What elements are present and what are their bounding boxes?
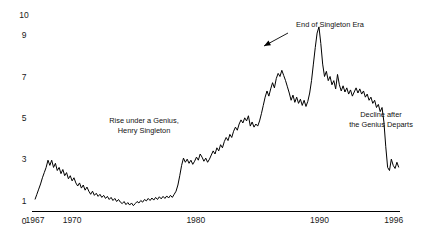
y-tick-label-10: 10 — [19, 10, 29, 20]
y-tick-label-5: 5 — [22, 113, 27, 123]
y-tick-label-9: 9 — [22, 30, 27, 40]
x-tick-label-1996: 1996 — [384, 215, 403, 225]
annotation-end-of-era-arrow-head — [264, 41, 271, 46]
series-line-0 — [35, 27, 399, 206]
y-tick-label-3: 3 — [22, 154, 27, 164]
annotation-decline-text: Decline afterthe Genius Departs — [349, 110, 413, 129]
annotation-rise-text: Rise under a Genius,Henry Singleton — [109, 116, 178, 135]
annotation-rise: Rise under a Genius,Henry Singleton — [109, 116, 178, 135]
data-series-group — [35, 27, 399, 206]
annotation-end-of-era: End of Singleton Era — [264, 20, 365, 46]
stock-price-line-chart: 10975310 19671970198019901996 Rise under… — [0, 0, 432, 248]
y-tick-label-1: 1 — [22, 196, 27, 206]
annotation-end-of-era-text: End of Singleton Era — [296, 20, 365, 29]
y-axis-tick-labels: 10975310 — [19, 10, 29, 227]
annotation-decline: Decline afterthe Genius Departs — [349, 110, 413, 129]
x-tick-label-1980: 1980 — [186, 215, 205, 225]
chart-container: 10975310 19671970198019901996 Rise under… — [0, 0, 432, 248]
x-axis-tick-labels: 19671970198019901996 — [26, 215, 404, 225]
x-tick-label-1967: 1967 — [26, 215, 45, 225]
x-tick-label-1990: 1990 — [310, 215, 329, 225]
annotations-group: Rise under a Genius,Henry SingletonEnd o… — [109, 20, 413, 135]
y-tick-label-7: 7 — [22, 72, 27, 82]
x-tick-label-1970: 1970 — [63, 215, 82, 225]
